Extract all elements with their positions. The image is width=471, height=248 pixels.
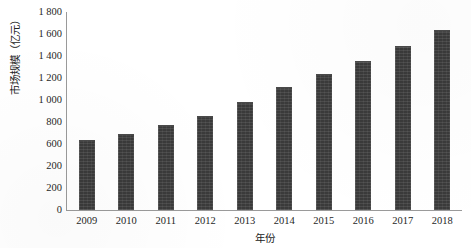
x-axis-tick-label: 2014 xyxy=(265,214,305,228)
bar-slot xyxy=(186,12,226,210)
bar-slot xyxy=(225,12,265,210)
x-axis-tick-label: 2013 xyxy=(225,214,265,228)
y-axis-tick-labels: 1 8001 6001 4001 2001 0008006002002000 xyxy=(18,0,62,248)
bar-slot xyxy=(146,12,186,210)
bar-slot xyxy=(67,12,107,210)
y-axis-tick-label: 0 xyxy=(18,205,62,215)
bar xyxy=(158,125,174,210)
x-axis-line xyxy=(66,210,462,211)
x-axis-tick-label: 2011 xyxy=(146,214,186,228)
y-axis-tick-label: 200 xyxy=(18,183,62,193)
y-axis-tick-label: 1 400 xyxy=(18,51,62,61)
bar xyxy=(434,30,450,210)
bar-slot xyxy=(107,12,147,210)
bar-slot xyxy=(344,12,384,210)
x-axis-tick-label: 2009 xyxy=(67,214,107,228)
bar xyxy=(316,74,332,210)
y-axis-tick-label: 800 xyxy=(18,117,62,127)
bar xyxy=(197,116,213,210)
y-axis-tick-label: 1 800 xyxy=(18,7,62,17)
x-axis-tick-label: 2018 xyxy=(423,214,463,228)
y-axis-tick-label: 1 600 xyxy=(18,29,62,39)
bar xyxy=(395,46,411,210)
y-axis-tick-label: 1 200 xyxy=(18,73,62,83)
y-axis-tick-label: 600 xyxy=(18,139,62,149)
x-axis-tick-label: 2016 xyxy=(344,214,384,228)
y-axis-tick-label: 1 000 xyxy=(18,95,62,105)
bar xyxy=(79,140,95,210)
bar-slot xyxy=(265,12,305,210)
x-axis-tick-label: 2015 xyxy=(304,214,344,228)
bar-chart: 市场规模（亿元） 1 8001 6001 4001 2001 000800600… xyxy=(0,0,471,248)
bar xyxy=(355,61,371,211)
bar-slot xyxy=(423,12,463,210)
y-axis-tick-label: 200 xyxy=(18,161,62,171)
bar xyxy=(118,134,134,210)
bar-slot xyxy=(304,12,344,210)
bar xyxy=(276,87,292,210)
x-axis-tick-labels: 2009201020112012201320142015201620172018 xyxy=(67,214,462,228)
x-axis-tick-label: 2012 xyxy=(186,214,226,228)
plot-area xyxy=(67,12,462,210)
bar-series xyxy=(67,12,462,210)
x-axis-tick-label: 2010 xyxy=(107,214,147,228)
x-axis-tick-label: 2017 xyxy=(383,214,423,228)
x-axis-title: 年份 xyxy=(67,230,462,245)
bar-slot xyxy=(383,12,423,210)
bar xyxy=(237,102,253,210)
